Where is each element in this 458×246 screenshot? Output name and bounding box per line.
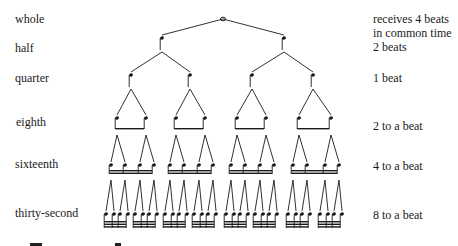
- branch-line: [208, 180, 213, 211]
- branch-line: [223, 19, 284, 35]
- branch-line: [307, 180, 310, 211]
- branch-line: [339, 180, 342, 211]
- beam: [133, 226, 155, 227]
- branch-line: [149, 180, 154, 211]
- branch-line: [325, 180, 328, 211]
- branch-line: [320, 180, 325, 211]
- branch-line: [176, 135, 184, 162]
- branch-line: [111, 180, 114, 211]
- branch-line: [284, 52, 313, 72]
- branch-line: [131, 89, 146, 115]
- branch-line: [266, 135, 274, 162]
- branch-line: [288, 180, 293, 211]
- beam: [133, 221, 155, 222]
- branch-line: [255, 180, 260, 211]
- branch-line: [302, 180, 307, 211]
- note-tree-diagram: [0, 0, 458, 246]
- branch-line: [299, 135, 307, 162]
- beam: [163, 224, 185, 225]
- branch-line: [293, 180, 296, 211]
- branch-line: [260, 180, 263, 211]
- branch-line: [199, 135, 205, 162]
- beam: [318, 226, 340, 227]
- beam: [104, 221, 126, 222]
- branch-line: [162, 19, 223, 35]
- beam: [286, 224, 308, 225]
- beam: [192, 224, 214, 225]
- branch-line: [106, 180, 111, 211]
- branch-line: [334, 180, 339, 211]
- branch-line: [170, 180, 173, 211]
- beam: [109, 173, 152, 174]
- beam: [104, 224, 126, 225]
- beam: [286, 226, 308, 227]
- branch-line: [293, 135, 299, 162]
- beam: [163, 226, 185, 227]
- branch-line: [140, 135, 146, 162]
- branch-line: [226, 180, 231, 211]
- branch-line: [170, 135, 176, 162]
- branch-line: [260, 135, 266, 162]
- branch-line: [252, 52, 284, 72]
- branch-line: [245, 180, 248, 211]
- branch-line: [140, 180, 143, 211]
- branch-line: [146, 135, 154, 162]
- branch-line: [125, 180, 128, 211]
- branch-line: [205, 135, 213, 162]
- beam: [286, 221, 308, 222]
- beam: [168, 173, 211, 174]
- beam: [235, 128, 264, 129]
- beam: [229, 170, 272, 171]
- branch-line: [269, 180, 274, 211]
- beam: [253, 224, 275, 225]
- beam: [318, 224, 340, 225]
- branch-line: [135, 180, 140, 211]
- beam: [291, 173, 337, 174]
- beam: [229, 173, 272, 174]
- branch-line: [117, 89, 131, 115]
- beam: [224, 226, 246, 227]
- beam: [109, 170, 152, 171]
- beam: [297, 128, 329, 129]
- branch-line: [231, 180, 234, 211]
- beam: [192, 226, 214, 227]
- beam: [291, 170, 337, 171]
- branch-line: [240, 180, 245, 211]
- branch-line: [184, 180, 187, 211]
- beam: [133, 224, 155, 225]
- branch-line: [231, 135, 237, 162]
- branch-line: [162, 52, 190, 72]
- branch-line: [120, 180, 125, 211]
- branch-line: [237, 135, 245, 162]
- branch-line: [252, 89, 266, 115]
- beam: [104, 226, 126, 227]
- branch-line: [274, 180, 277, 211]
- branch-line: [176, 89, 190, 115]
- branch-line: [131, 52, 162, 72]
- beam: [224, 224, 246, 225]
- beam: [115, 128, 144, 129]
- branch-line: [325, 135, 331, 162]
- branch-line: [117, 135, 125, 162]
- branch-line: [331, 135, 339, 162]
- branch-line: [199, 180, 202, 211]
- beam: [224, 221, 246, 222]
- beam: [318, 221, 340, 222]
- beam: [192, 221, 214, 222]
- branch-line: [179, 180, 184, 211]
- branch-line: [190, 89, 205, 115]
- beam: [253, 226, 275, 227]
- branch-line: [299, 89, 313, 115]
- branch-line: [237, 89, 252, 115]
- beam: [168, 170, 211, 171]
- branch-line: [154, 180, 157, 211]
- beam: [163, 221, 185, 222]
- branch-line: [111, 135, 117, 162]
- beam: [253, 221, 275, 222]
- beam: [174, 128, 203, 129]
- branch-line: [313, 89, 331, 115]
- branch-line: [213, 180, 216, 211]
- branch-line: [194, 180, 199, 211]
- branch-line: [165, 180, 170, 211]
